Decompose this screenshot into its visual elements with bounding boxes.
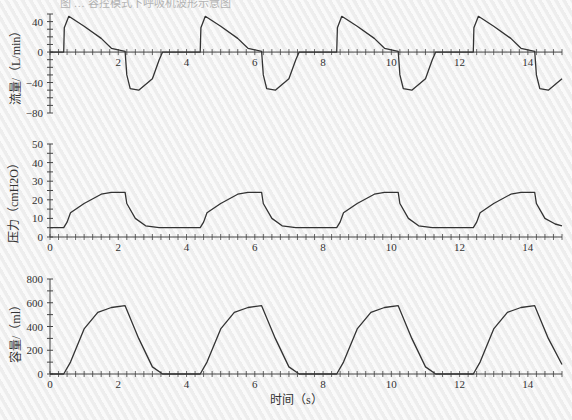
chart-canvas: −80−400402468101214010203040500246810121… bbox=[0, 0, 572, 420]
y-tick-label: 30 bbox=[32, 175, 44, 187]
x-tick-label: 12 bbox=[454, 378, 465, 390]
y-tick-label: 40 bbox=[32, 157, 44, 169]
x-tick-label: 10 bbox=[386, 241, 398, 253]
volume-panel: 020040060080002468101214 bbox=[27, 273, 563, 390]
x-tick-label: 14 bbox=[522, 378, 534, 390]
pressure-line bbox=[50, 192, 562, 227]
pressure-y-axis-label: 压力（cmH2O） bbox=[4, 155, 22, 245]
x-tick-label: 0 bbox=[47, 378, 53, 390]
pressure-panel: 0102030405002468101214 bbox=[32, 138, 562, 253]
y-tick-label: 50 bbox=[32, 138, 44, 150]
y-tick-label: −40 bbox=[26, 77, 44, 89]
x-tick-label: 8 bbox=[320, 241, 326, 253]
x-tick-label: 0 bbox=[47, 241, 53, 253]
y-tick-label: 0 bbox=[38, 231, 44, 243]
x-tick-label: 2 bbox=[116, 378, 122, 390]
x-tick-label: 14 bbox=[522, 56, 534, 68]
volume-y-axis-label: 容量/（ml） bbox=[6, 286, 24, 376]
y-tick-label: 10 bbox=[32, 212, 44, 224]
x-tick-label: 6 bbox=[252, 378, 258, 390]
x-tick-label: 12 bbox=[454, 241, 465, 253]
y-tick-label: 200 bbox=[27, 344, 44, 356]
flow-y-axis-label: 流量/（L/min） bbox=[6, 20, 24, 110]
x-tick-label: 6 bbox=[252, 56, 258, 68]
volume-line bbox=[50, 306, 562, 374]
y-tick-label: 0 bbox=[38, 368, 44, 380]
x-tick-label: 2 bbox=[116, 56, 122, 68]
y-tick-label: 0 bbox=[38, 46, 44, 58]
x-tick-label: 8 bbox=[320, 378, 326, 390]
x-tick-label: 2 bbox=[116, 241, 122, 253]
x-axis-label: 时间（s） bbox=[270, 390, 323, 408]
x-tick-label: 10 bbox=[386, 378, 398, 390]
y-tick-label: 400 bbox=[27, 321, 44, 333]
x-tick-label: 10 bbox=[386, 56, 398, 68]
x-tick-label: 4 bbox=[184, 56, 190, 68]
flow-panel: −80−400402468101214 bbox=[26, 14, 562, 119]
y-tick-label: 600 bbox=[27, 297, 44, 309]
x-tick-label: 4 bbox=[184, 241, 190, 253]
y-tick-label: 40 bbox=[32, 16, 44, 28]
y-tick-label: 800 bbox=[27, 273, 44, 285]
x-tick-label: 12 bbox=[454, 56, 465, 68]
y-tick-label: −80 bbox=[26, 107, 44, 119]
x-tick-label: 6 bbox=[252, 241, 258, 253]
x-tick-label: 14 bbox=[522, 241, 534, 253]
x-tick-label: 4 bbox=[184, 378, 190, 390]
y-tick-label: 20 bbox=[32, 194, 44, 206]
x-tick-label: 8 bbox=[320, 56, 326, 68]
